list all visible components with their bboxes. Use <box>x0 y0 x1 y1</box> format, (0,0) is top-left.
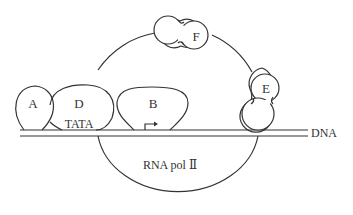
label-b: B <box>149 96 158 111</box>
factor-d-tail <box>50 122 62 130</box>
tss-arrow-line <box>145 124 154 130</box>
rna-pol-loop-right <box>212 35 252 72</box>
transcription-diagram: A D B F E TATA DNA RNA pol Ⅱ <box>0 0 353 215</box>
label-d: D <box>74 96 83 111</box>
rna-pol-loop <box>98 33 155 70</box>
label-rna-pol: RNA pol Ⅱ <box>143 158 197 172</box>
label-tata: TATA <box>65 117 94 131</box>
tss-arrowhead <box>154 122 158 127</box>
label-dna: DNA <box>311 126 337 140</box>
label-e: E <box>262 81 270 96</box>
label-f: F <box>192 29 199 44</box>
label-a: A <box>28 96 38 111</box>
diagram-canvas: A D B F E TATA DNA RNA pol Ⅱ <box>0 0 353 215</box>
